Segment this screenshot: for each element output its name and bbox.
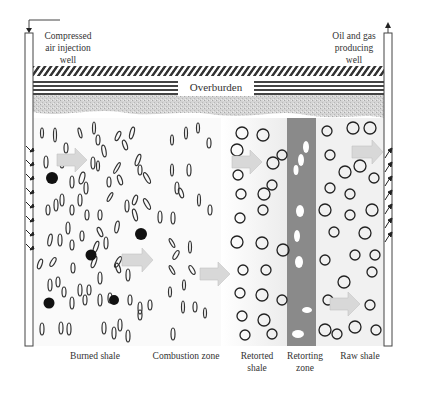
zone-label-raw-shale: Raw shale (330, 350, 390, 362)
retorting-zone-band (287, 118, 316, 346)
production-well-label-line-3: well (322, 54, 386, 66)
zone-label-burned-shale: Burned shale (55, 350, 135, 362)
zone-label-retorted-line-1: Retorted (232, 350, 282, 362)
rubble-layer (33, 94, 384, 118)
zone-label-combustion-zone: Combustion zone (140, 350, 232, 362)
zone-label-retorting-line-2: zone (280, 362, 330, 374)
injection-well-label-line-2: air injection (36, 42, 100, 54)
zone-label-retorting-zone: Retorting zone (280, 350, 330, 374)
production-well-label-line-2: producing (322, 42, 386, 54)
overburden-label: Overburden (178, 78, 254, 96)
injection-well-label: Compressed air injection well (36, 30, 100, 66)
zone-label-retorting-line-1: Retorting (280, 350, 330, 362)
surface-hatch (33, 66, 384, 76)
zone-backgrounds (33, 118, 384, 346)
zone-label-retorted-line-2: shale (232, 362, 282, 374)
production-well (384, 22, 392, 346)
production-well-label: Oil and gas producing well (322, 30, 386, 66)
production-well-label-line-1: Oil and gas (322, 30, 386, 42)
injection-well-label-line-1: Compressed (36, 30, 100, 42)
injection-well-label-line-3: well (36, 54, 100, 66)
zone-label-retorted-shale: Retorted shale (232, 350, 282, 374)
